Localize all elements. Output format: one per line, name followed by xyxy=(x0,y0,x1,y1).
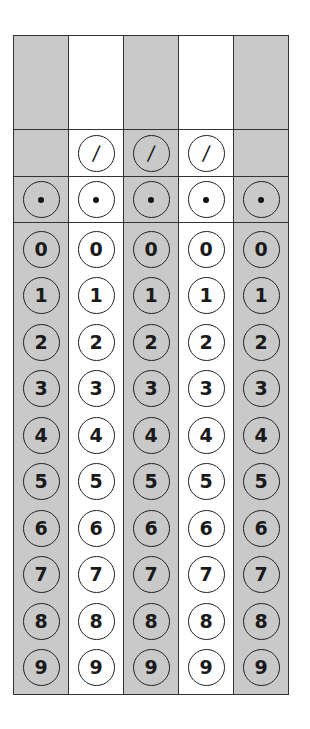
digit-bubble-5[interactable]: 5 xyxy=(133,463,170,500)
digit-bubble-4[interactable]: 4 xyxy=(188,417,225,454)
write-in-box[interactable] xyxy=(234,36,288,130)
digit-slot: 6 xyxy=(78,505,115,552)
digit-bubble-5[interactable]: 5 xyxy=(23,463,60,500)
digit-bubble-9[interactable]: 9 xyxy=(133,649,170,686)
digit-bubble-5[interactable]: 5 xyxy=(243,463,280,500)
digit-slot: 8 xyxy=(23,598,60,645)
fraction-bar-bubble[interactable]: / xyxy=(133,135,170,172)
decimal-point-bubble[interactable] xyxy=(133,181,170,218)
write-in-box[interactable] xyxy=(69,36,123,130)
digit-bubble-8[interactable]: 8 xyxy=(243,603,280,640)
digit-bubble-6[interactable]: 6 xyxy=(243,510,280,547)
digit-bubble-0[interactable]: 0 xyxy=(243,231,280,268)
fraction-bar-bubble[interactable]: / xyxy=(188,135,225,172)
digit-slot: 7 xyxy=(243,552,280,599)
digit-bubble-7[interactable]: 7 xyxy=(188,556,225,593)
digit-bubble-7[interactable]: 7 xyxy=(133,556,170,593)
digit-bubble-3[interactable]: 3 xyxy=(23,370,60,407)
digit-bubble-9[interactable]: 9 xyxy=(23,649,60,686)
decimal-dot-icon xyxy=(38,197,44,203)
digit-bubble-3[interactable]: 3 xyxy=(243,370,280,407)
fraction-bar-bubble[interactable]: / xyxy=(78,135,115,172)
write-in-box[interactable] xyxy=(124,36,178,130)
digit-slot: 0 xyxy=(243,226,280,273)
digit-slot: 2 xyxy=(23,319,60,366)
digit-slot: 4 xyxy=(243,412,280,459)
write-in-box[interactable] xyxy=(14,36,68,130)
digit-slot: 4 xyxy=(133,412,170,459)
digit-bubble-2[interactable]: 2 xyxy=(78,324,115,361)
digit-bubble-9[interactable]: 9 xyxy=(78,649,115,686)
digit-slot: 0 xyxy=(23,226,60,273)
digit-bubble-0[interactable]: 0 xyxy=(78,231,115,268)
digit-bubble-6[interactable]: 6 xyxy=(78,510,115,547)
digit-slot: 9 xyxy=(243,645,280,692)
digit-bubble-2[interactable]: 2 xyxy=(243,324,280,361)
fraction-row-cell: / xyxy=(69,130,123,177)
digit-bubble-3[interactable]: 3 xyxy=(188,370,225,407)
fraction-row-cell: / xyxy=(124,130,178,177)
digit-bubble-8[interactable]: 8 xyxy=(78,603,115,640)
digit-bubble-2[interactable]: 2 xyxy=(23,324,60,361)
digit-slot: 1 xyxy=(188,273,225,320)
digit-slot: 5 xyxy=(23,459,60,506)
answer-column-3: /0123456789 xyxy=(124,36,179,694)
digit-bubble-1[interactable]: 1 xyxy=(243,277,280,314)
write-in-box[interactable] xyxy=(179,36,233,130)
digit-slot: 1 xyxy=(243,273,280,320)
digit-bubble-4[interactable]: 4 xyxy=(243,417,280,454)
digit-bubble-7[interactable]: 7 xyxy=(23,556,60,593)
digit-slot: 3 xyxy=(23,366,60,413)
digit-slot: 6 xyxy=(243,505,280,552)
decimal-point-bubble[interactable] xyxy=(188,181,225,218)
digit-slot: 5 xyxy=(133,459,170,506)
decimal-dot-icon xyxy=(93,197,99,203)
digit-slot: 0 xyxy=(78,226,115,273)
digit-bubble-7[interactable]: 7 xyxy=(78,556,115,593)
digit-bubble-1[interactable]: 1 xyxy=(78,277,115,314)
digit-bubble-6[interactable]: 6 xyxy=(133,510,170,547)
answer-column-4: /0123456789 xyxy=(179,36,234,694)
digit-slot: 3 xyxy=(188,366,225,413)
digit-bubble-8[interactable]: 8 xyxy=(133,603,170,640)
decimal-point-bubble[interactable] xyxy=(243,181,280,218)
digit-bubble-4[interactable]: 4 xyxy=(23,417,60,454)
digit-bubble-4[interactable]: 4 xyxy=(133,417,170,454)
digit-bubble-2[interactable]: 2 xyxy=(188,324,225,361)
decimal-row-cell xyxy=(179,177,233,223)
digit-bubble-1[interactable]: 1 xyxy=(133,277,170,314)
digit-bubble-9[interactable]: 9 xyxy=(243,649,280,686)
digit-bubble-1[interactable]: 1 xyxy=(188,277,225,314)
fraction-row-cell xyxy=(14,130,68,177)
digit-slot: 5 xyxy=(243,459,280,506)
digit-bubble-8[interactable]: 8 xyxy=(23,603,60,640)
digit-slot: 6 xyxy=(188,505,225,552)
digit-bubble-3[interactable]: 3 xyxy=(78,370,115,407)
digit-bubble-9[interactable]: 9 xyxy=(188,649,225,686)
digit-slot: 2 xyxy=(188,319,225,366)
digit-bubble-3[interactable]: 3 xyxy=(133,370,170,407)
digit-bubble-5[interactable]: 5 xyxy=(78,463,115,500)
digit-slot: 5 xyxy=(78,459,115,506)
digit-slot: 2 xyxy=(133,319,170,366)
digit-bubble-8[interactable]: 8 xyxy=(188,603,225,640)
digit-bubble-0[interactable]: 0 xyxy=(188,231,225,268)
digit-slot: 9 xyxy=(23,645,60,692)
digit-bubble-6[interactable]: 6 xyxy=(23,510,60,547)
decimal-row-cell xyxy=(69,177,123,223)
slash-icon: / xyxy=(201,143,211,163)
digit-bubble-6[interactable]: 6 xyxy=(188,510,225,547)
digit-bubble-0[interactable]: 0 xyxy=(133,231,170,268)
digit-bubble-1[interactable]: 1 xyxy=(23,277,60,314)
digit-bubble-7[interactable]: 7 xyxy=(243,556,280,593)
digit-bubble-5[interactable]: 5 xyxy=(188,463,225,500)
decimal-row-cell xyxy=(234,177,288,223)
digit-slot: 1 xyxy=(133,273,170,320)
decimal-point-bubble[interactable] xyxy=(23,181,60,218)
digit-slot: 8 xyxy=(78,598,115,645)
digit-bubble-0[interactable]: 0 xyxy=(23,231,60,268)
decimal-point-bubble[interactable] xyxy=(78,181,115,218)
digit-slot: 8 xyxy=(133,598,170,645)
digit-bubble-4[interactable]: 4 xyxy=(78,417,115,454)
digit-bubble-2[interactable]: 2 xyxy=(133,324,170,361)
